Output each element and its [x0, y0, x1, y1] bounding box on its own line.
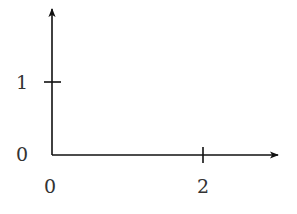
x-tick-label-2: 2	[197, 175, 209, 197]
y-tick-label-1: 1	[16, 71, 28, 93]
y-origin-label: 0	[16, 143, 28, 165]
axes-diagram: 1 0 0 2	[0, 0, 297, 214]
x-origin-label: 0	[44, 175, 56, 197]
